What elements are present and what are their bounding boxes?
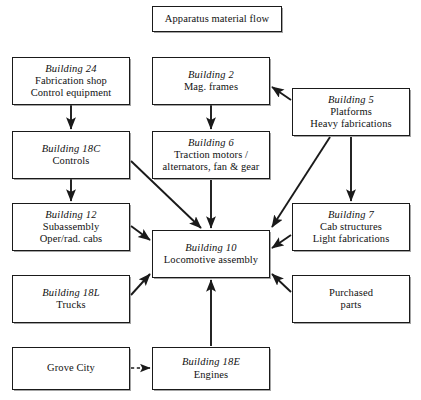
building-2-line-1: Building 2 — [188, 69, 234, 81]
building-7-line-1: Building 7 — [328, 209, 374, 221]
building-18e-line-1: Building 18E — [182, 356, 240, 368]
building-18l[interactable]: Building 18LTrucks — [12, 275, 130, 323]
building-5[interactable]: Building 5PlatformsHeavy fabrications — [292, 88, 410, 136]
purchased-parts-line-2: parts — [341, 299, 362, 311]
purchased-parts-line-1: Purchased — [329, 287, 373, 299]
building-18e[interactable]: Building 18EEngines — [152, 347, 270, 390]
building-18e-line-2: Engines — [194, 369, 229, 381]
building-6-line-1: Building 6 — [188, 137, 234, 149]
building-12-line-3: Oper/rad. cabs — [40, 233, 103, 245]
building-18c-line-2: Controls — [53, 155, 90, 167]
building-5-line-1: Building 5 — [328, 94, 374, 106]
building-12-line-1: Building 12 — [45, 209, 97, 221]
apparatus-material-flow-line-1: Apparatus material flow — [165, 13, 269, 25]
building-12[interactable]: Building 12SubassemblyOper/rad. cabs — [12, 203, 130, 251]
edge-purchased-to-b10 — [272, 274, 291, 292]
building-12-line-2: Subassembly — [43, 221, 100, 233]
building-24-line-3: Control equipment — [31, 87, 112, 99]
building-5-line-2: Platforms — [330, 106, 372, 118]
building-10-line-1: Building 10 — [185, 242, 237, 254]
building-2-line-2: Mag. frames — [184, 81, 238, 93]
building-6-line-2: Traction motors / — [174, 149, 248, 161]
building-24-line-1: Building 24 — [45, 63, 97, 75]
building-10-line-2: Locomotive assembly — [164, 254, 258, 266]
building-6[interactable]: Building 6Traction motors /alternators, … — [152, 131, 270, 179]
building-5-line-3: Heavy fabrications — [310, 118, 391, 130]
edge-b7-to-b10 — [272, 235, 291, 248]
building-24[interactable]: Building 24Fabrication shopControl equip… — [12, 57, 130, 105]
edge-b18l-to-b10 — [131, 274, 150, 295]
building-24-line-2: Fabrication shop — [35, 75, 107, 87]
flowchart-canvas: Apparatus material flowBuilding 24Fabric… — [0, 0, 421, 400]
building-18l-line-2: Trucks — [56, 299, 85, 311]
apparatus-material-flow[interactable]: Apparatus material flow — [152, 6, 282, 32]
building-7-line-3: Light fabrications — [313, 233, 390, 245]
building-7-line-2: Cab structures — [320, 221, 382, 233]
building-18c-line-1: Building 18C — [42, 143, 101, 155]
building-7[interactable]: Building 7Cab structuresLight fabricatio… — [292, 203, 410, 251]
building-18c[interactable]: Building 18CControls — [12, 131, 130, 179]
building-2[interactable]: Building 2Mag. frames — [152, 57, 270, 105]
purchased-parts[interactable]: Purchasedparts — [292, 275, 410, 323]
grove-city[interactable]: Grove City — [12, 347, 130, 390]
grove-city-line-1: Grove City — [47, 362, 95, 374]
building-18l-line-1: Building 18L — [42, 287, 100, 299]
building-10[interactable]: Building 10Locomotive assembly — [152, 230, 270, 278]
building-6-line-3: alternators, fan & gear — [163, 161, 260, 173]
edge-b12-to-b10 — [131, 226, 150, 240]
edge-b5-to-b2 — [272, 87, 291, 100]
